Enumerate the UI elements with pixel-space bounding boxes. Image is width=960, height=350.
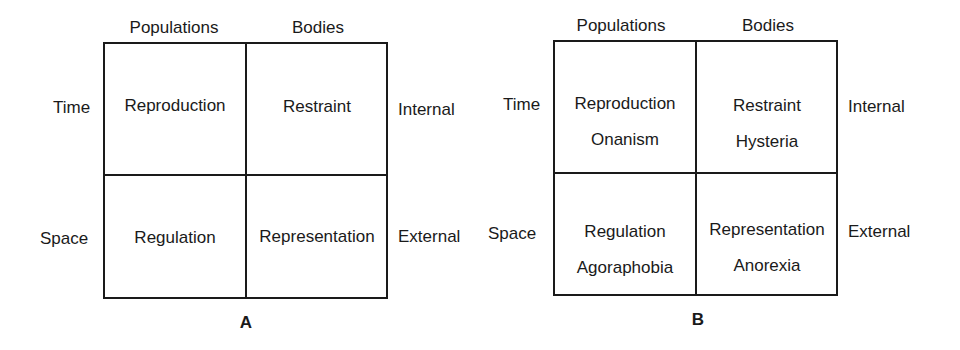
column-header-populations: Populations <box>577 16 666 36</box>
cell-space-bodies: Representation Anorexia <box>697 174 837 295</box>
cell-time-bodies: Restraint Hysteria <box>697 42 837 172</box>
cell-primary-text: Restraint <box>733 88 801 124</box>
cell-time-populations: Reproduction Onanism <box>555 42 695 172</box>
row-label-space: Space <box>488 224 536 244</box>
cell-secondary-text: Anorexia <box>733 248 800 284</box>
cell-primary-text: Representation <box>709 212 824 248</box>
cell-primary-text: Reproduction <box>574 86 675 122</box>
row-label-time: Time <box>503 95 540 115</box>
cell-space-populations: Regulation Agoraphobia <box>555 174 695 295</box>
row-label-external: External <box>848 222 910 242</box>
column-header-bodies: Bodies <box>742 16 794 36</box>
panel-b: Populations Bodies Time Space Internal E… <box>0 0 480 350</box>
panel-caption: B <box>692 310 704 330</box>
cell-primary-text: Regulation <box>584 214 665 250</box>
cell-secondary-text: Agoraphobia <box>577 250 673 286</box>
cell-secondary-text: Hysteria <box>736 124 798 160</box>
cell-secondary-text: Onanism <box>591 122 659 158</box>
row-label-internal: Internal <box>848 97 905 117</box>
